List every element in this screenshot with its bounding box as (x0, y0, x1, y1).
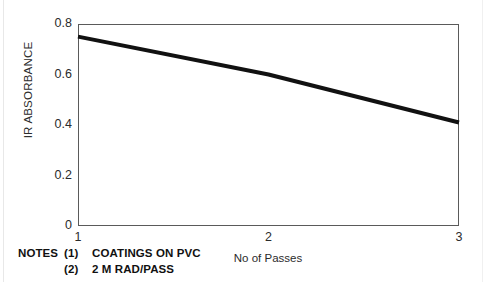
y-tick-label: 0.6 (32, 67, 72, 81)
plot-area (78, 24, 459, 226)
data-series-line (78, 37, 459, 123)
x-tick-label: 2 (249, 230, 289, 244)
x-tick-label: 3 (439, 230, 479, 244)
notes-lead-label: NOTES (18, 245, 64, 261)
notes-block: NOTES (1) COATINGS ON PVC (2) 2 M RAD/PA… (18, 245, 201, 277)
note-row: NOTES (1) COATINGS ON PVC (18, 245, 201, 261)
y-tick-label: 0.8 (32, 16, 72, 30)
note-number: (1) (64, 245, 92, 261)
note-row: (2) 2 M RAD/PASS (18, 261, 201, 277)
y-tick-label: 0.2 (32, 168, 72, 182)
y-axis-label: IR ABSORBANCE (22, 20, 34, 160)
note-text: 2 M RAD/PASS (92, 261, 174, 277)
note-text: COATINGS ON PVC (92, 245, 201, 261)
y-tick-label: 0.4 (32, 117, 72, 131)
x-tick-label: 1 (58, 230, 98, 244)
chart-figure: 00.20.40.60.8 IR ABSORBANCE 123 No of Pa… (0, 0, 485, 282)
note-number: (2) (64, 261, 92, 277)
